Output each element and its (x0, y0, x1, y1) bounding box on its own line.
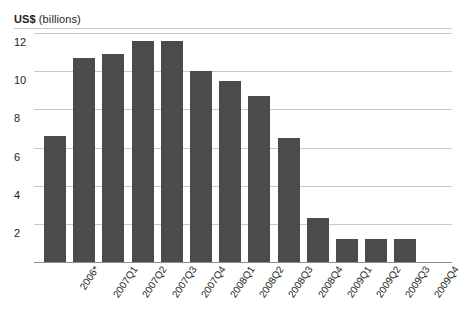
x-axis-tick-label: 2007Q4 (198, 264, 227, 300)
y-axis-tick-label: 12 (14, 37, 31, 48)
x-axis-labels-group: 2006*2007Q12007Q22007Q32007Q42008Q12008Q… (34, 264, 456, 310)
x-axis-tick-label: 2008Q2 (257, 264, 286, 300)
bar (190, 71, 212, 262)
bar (248, 96, 270, 262)
x-axis-tick-label: 2007Q1 (111, 264, 140, 300)
bar (44, 136, 66, 262)
y-axis-tick-label: 8 (14, 113, 31, 124)
x-axis-tick-label: 2007Q3 (169, 264, 198, 300)
x-axis-tick-label: 2006* (78, 264, 102, 292)
x-axis-tick-label: 2008Q3 (286, 264, 315, 300)
bar (278, 138, 300, 262)
bar (161, 41, 183, 262)
chart-title-units: US$ (14, 13, 36, 25)
x-axis-tick-label: 2009Q3 (403, 264, 432, 300)
bar (365, 239, 387, 262)
chart-title: US$ (billions) (14, 13, 81, 26)
bar (73, 58, 95, 262)
bar (394, 239, 416, 262)
x-axis-tick-label: 2009Q4 (432, 264, 461, 300)
y-axis-tick-label: 2 (14, 228, 31, 239)
x-axis-tick-label: 2008Q1 (228, 264, 257, 300)
x-axis-tick-label: 2008Q4 (315, 264, 344, 300)
y-axis-tick-label: 4 (14, 190, 31, 201)
bars-group (34, 33, 452, 262)
bar (132, 41, 154, 262)
y-axis-tick-label: 10 (14, 75, 31, 86)
bar (219, 81, 241, 262)
y-axis-tick-label: 6 (14, 152, 31, 163)
x-axis-tick-label: 2009Q2 (374, 264, 403, 300)
chart-title-qualifier: (billions) (36, 13, 81, 25)
bar (102, 54, 124, 262)
bar (307, 218, 329, 262)
x-axis-line (34, 262, 452, 263)
plot-area: 12108642 (14, 33, 452, 263)
x-axis-tick-label: 2009Q1 (344, 264, 373, 300)
bar (336, 239, 358, 262)
x-axis-tick-label: 2007Q2 (140, 264, 169, 300)
title-divider (14, 28, 452, 29)
